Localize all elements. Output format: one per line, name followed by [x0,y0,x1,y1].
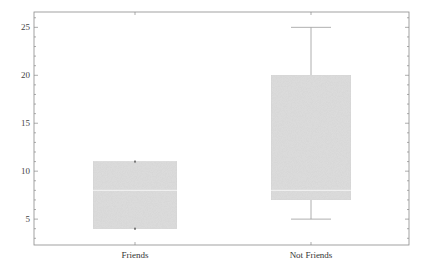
y-tick-label: 20 [21,70,31,80]
y-tick-label: 15 [21,118,31,128]
y-tick-label: 10 [21,166,31,176]
y-tick-label: 5 [26,214,31,224]
max-marker [134,161,136,163]
box-friends [93,161,177,230]
plot-frame [34,12,409,245]
iqr-box [93,162,177,229]
min-marker [134,228,136,230]
y-tick-label: 25 [21,22,31,32]
x-category-label: Not Friends [290,250,333,260]
plot-border [34,12,409,245]
box-series [93,27,351,229]
box-not-friends [271,27,351,219]
x-category-label: Friends [122,250,149,260]
box-plot-chart: 510152025 FriendsNot Friends [0,0,432,276]
iqr-box [271,75,351,200]
